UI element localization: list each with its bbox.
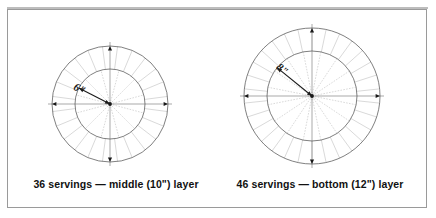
radius-label-bottom-layer: 8" (274, 61, 291, 78)
outer-cut-line (357, 101, 380, 103)
centre-point (310, 94, 314, 98)
outer-cut-line (298, 29, 303, 51)
inner-cut-line (268, 96, 312, 105)
axis-arrow-tick (52, 102, 56, 106)
inner-cut-line (110, 70, 119, 104)
outer-cut-line (338, 41, 352, 60)
outer-cut-line (253, 62, 273, 74)
inner-cut-line (268, 87, 312, 96)
inner-cut-line (76, 104, 110, 113)
outer-cut-line (142, 82, 163, 91)
outer-cut-line (253, 119, 273, 131)
serving-diagram-middle-layer: 6" (48, 42, 172, 166)
outer-cut-line (284, 137, 293, 158)
outer-cut-line (53, 109, 76, 112)
outer-cut-line (88, 136, 97, 157)
outer-cut-line (75, 58, 89, 76)
inner-cut-line (275, 71, 312, 96)
outer-cut-line (142, 117, 163, 126)
inner-cut-line (110, 104, 144, 113)
inner-cut-line (312, 96, 356, 105)
outer-cut-line (298, 140, 303, 162)
outer-cut-line (355, 110, 377, 117)
outer-cut-line (244, 89, 267, 91)
outer-cut-line (244, 101, 267, 103)
inner-cut-line (312, 71, 349, 96)
centre-point (108, 102, 112, 106)
outer-cut-line (261, 126, 278, 141)
inner-cut-line (312, 59, 337, 96)
outer-cut-line (123, 136, 132, 157)
inner-cut-line (101, 70, 110, 104)
outer-cut-line (145, 96, 168, 99)
outer-cut-line (131, 58, 145, 76)
outer-cut-line (102, 139, 105, 162)
inner-cut-line (110, 95, 144, 104)
outer-cut-line (321, 140, 326, 162)
inner-cut-line (110, 104, 135, 129)
inner-cut-line (110, 104, 119, 138)
axis-arrow-tick (108, 158, 112, 162)
inner-cut-line (287, 59, 312, 96)
inner-cut-line (101, 104, 110, 138)
axis-arrow-tick (244, 94, 248, 98)
outer-cut-line (330, 34, 339, 55)
caption-middle-layer: 36 servings — middle (10") layer (18, 178, 214, 190)
inner-cut-line (110, 79, 135, 104)
outer-cut-line (88, 50, 97, 71)
serving-diagram-bottom-layer: 8" (240, 24, 384, 168)
axis-arrow-tick (310, 160, 314, 164)
outer-cut-line (123, 50, 132, 71)
outer-cut-line (345, 51, 362, 66)
outer-cut-line (247, 75, 269, 82)
outer-cut-line (357, 89, 380, 91)
outer-cut-line (351, 62, 371, 74)
outer-cut-line (145, 109, 168, 112)
outer-cut-line (330, 137, 339, 158)
axis-arrow-tick (310, 28, 314, 32)
inner-cut-line (275, 96, 312, 121)
inner-cut-line (287, 96, 312, 133)
outer-cut-line (247, 110, 269, 117)
axis-arrow-tick (164, 102, 168, 106)
outer-cut-line (56, 117, 77, 126)
outer-cut-line (138, 69, 156, 83)
outer-cut-line (131, 132, 145, 150)
inner-cut-line (76, 95, 110, 104)
outer-cut-line (345, 126, 362, 141)
outer-cut-line (272, 41, 286, 60)
inner-cut-line (303, 96, 312, 140)
inner-cut-line (85, 104, 110, 129)
inner-cut-line (312, 52, 321, 96)
outer-cut-line (115, 47, 118, 70)
outer-cut-line (53, 96, 76, 99)
inner-cut-line (312, 96, 349, 121)
inner-cut-line (312, 96, 321, 140)
outer-cut-line (284, 34, 293, 55)
outer-cut-line (321, 29, 326, 51)
outer-cut-line (102, 47, 105, 70)
outer-cut-line (351, 119, 371, 131)
inner-cut-line (312, 96, 337, 133)
outer-cut-line (261, 51, 278, 66)
inner-cut-line (312, 87, 356, 96)
caption-bottom-layer: 46 servings — bottom (12") layer (222, 178, 418, 190)
figure-root: 6"8" 36 servings — middle (10") layer 46… (0, 0, 436, 218)
radius-label-middle-layer: 6" (72, 80, 88, 96)
outer-cut-line (115, 139, 118, 162)
outer-cut-line (355, 75, 377, 82)
axis-arrow-tick (376, 94, 380, 98)
outer-cut-line (64, 125, 82, 139)
outer-cut-line (75, 132, 89, 150)
outer-cut-line (138, 125, 156, 139)
axis-arrow-tick (108, 46, 112, 50)
outer-cut-line (272, 132, 286, 151)
outer-cut-line (338, 132, 352, 151)
